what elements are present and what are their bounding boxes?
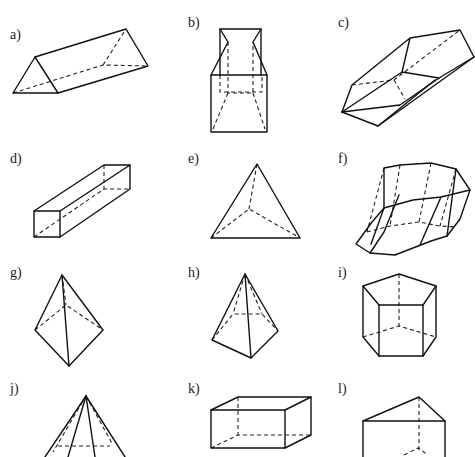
figure-label-k: k) (188, 382, 200, 396)
hidden-edge (213, 93, 228, 129)
visible-edge (420, 197, 441, 245)
figure-label-g: g) (10, 266, 22, 280)
figure-label-c: c) (338, 16, 349, 30)
hidden-edge (419, 163, 431, 222)
visible-edge (245, 274, 251, 358)
figure-pentagonal-prism (363, 274, 436, 356)
figure-triangular-prism (13, 29, 148, 93)
hidden-edge (367, 168, 384, 232)
figure-label-i: i) (338, 266, 347, 280)
figure-hexagonal-prism-oblique (342, 30, 474, 126)
hidden-edge (367, 222, 456, 232)
visible-edge (211, 397, 311, 410)
hidden-edge (363, 326, 436, 337)
figure-cuboid (211, 397, 311, 448)
visible-edge (211, 164, 300, 238)
visible-edge (13, 57, 58, 93)
figure-label-e: e) (188, 152, 199, 166)
figure-composite-box-frustum (211, 29, 267, 132)
visible-edge (371, 208, 384, 244)
figure-square-pyramid (212, 274, 278, 358)
figure-label-l: l) (338, 382, 347, 396)
figure-label-f: f) (338, 152, 347, 166)
geometric-solids-figure-grid (0, 0, 475, 457)
visible-edge (342, 78, 439, 112)
hidden-edge (394, 80, 405, 99)
hidden-edge (211, 209, 300, 238)
visible-edge (35, 275, 103, 366)
visible-edge (363, 397, 445, 421)
visible-edge (285, 397, 311, 448)
figure-rectangular-prism (34, 165, 130, 237)
figure-label-h: h) (188, 266, 200, 280)
hidden-edge (440, 169, 456, 226)
visible-edge (34, 211, 60, 237)
figure-octagonal-prism-oblique (356, 163, 470, 255)
visible-edge (211, 410, 285, 448)
visible-edge (342, 57, 474, 126)
figure-label-a: a) (10, 28, 21, 42)
figure-tetrahedron (211, 164, 300, 238)
hidden-edge (253, 93, 265, 129)
figure-triangular-prism-upright (363, 397, 445, 457)
visible-edge (45, 396, 86, 457)
visible-edge (68, 396, 86, 457)
visible-edge (211, 75, 267, 132)
visible-edge (60, 165, 130, 237)
figure-label-d: d) (10, 152, 22, 166)
hidden-edge (404, 448, 428, 455)
visible-edge (62, 275, 69, 366)
visible-edge (212, 274, 278, 358)
hidden-edge (212, 314, 278, 340)
figure-polygonal-pyramid-partial (45, 396, 125, 457)
figure-label-b: b) (188, 16, 200, 30)
hidden-edge (228, 42, 253, 93)
hidden-edge (220, 75, 262, 92)
figure-label-j: j) (10, 382, 19, 396)
hidden-edge (211, 435, 311, 448)
figure-triangular-pyramid (35, 275, 103, 366)
hidden-edge (13, 65, 148, 93)
visible-edge (86, 396, 125, 457)
